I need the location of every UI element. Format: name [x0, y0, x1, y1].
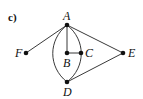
node-a [65, 23, 70, 28]
edge-a-f [26, 25, 67, 53]
node-labels: A B C D E F [14, 9, 136, 99]
edge-d-e [67, 53, 123, 82]
panel-label: c) [8, 11, 17, 24]
node-c [79, 51, 84, 56]
node-d [65, 80, 70, 85]
edge-a-e [67, 25, 123, 53]
node-e [121, 51, 126, 56]
label-a: A [62, 9, 71, 23]
node-f [24, 51, 29, 56]
label-d: D [62, 85, 72, 99]
node-b [65, 51, 70, 56]
label-f: F [14, 46, 23, 60]
edges [26, 25, 123, 82]
graph-diagram: c) A B C D E F [0, 0, 143, 99]
label-b: B [63, 56, 71, 70]
label-e: E [127, 46, 136, 60]
label-c: C [85, 46, 94, 60]
